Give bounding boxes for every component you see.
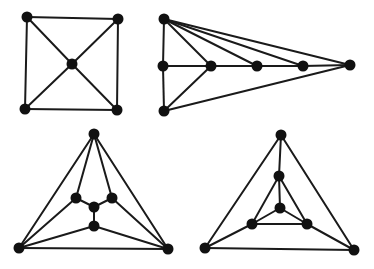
- vertex-br: [163, 244, 174, 255]
- vertex-br: [349, 245, 360, 256]
- vertex-ir: [302, 219, 313, 230]
- vertex-lc: [89, 221, 100, 232]
- vertex-tl: [22, 12, 33, 23]
- edge-bl-br: [19, 248, 168, 249]
- graph-triangle-claw: [14, 129, 174, 255]
- edge-top-ir: [94, 134, 112, 198]
- edge-top-it: [279, 135, 281, 176]
- edge-tr-c: [72, 19, 118, 64]
- vertex-top: [159, 14, 170, 25]
- edge-top-tip: [164, 19, 350, 65]
- edge-bot-tip: [164, 65, 350, 111]
- graph-square-with-center: [20, 12, 124, 116]
- vertex-p3: [298, 61, 309, 72]
- vertex-ir: [107, 193, 118, 204]
- edge-bl-tl: [25, 17, 27, 109]
- vertex-p2: [252, 61, 263, 72]
- edge-bl-br: [205, 248, 354, 250]
- vertex-ml: [158, 61, 169, 72]
- edge-br-bl: [25, 109, 117, 110]
- edge-top-il: [76, 134, 94, 198]
- vertex-il: [247, 219, 258, 230]
- vertex-c: [67, 59, 78, 70]
- vertex-bot: [159, 106, 170, 117]
- edge-tl-tr: [27, 17, 118, 19]
- vertex-top: [276, 130, 287, 141]
- vertex-c: [89, 202, 100, 213]
- edge-ml-bot: [163, 66, 164, 111]
- vertex-br: [112, 105, 123, 116]
- edge-top-bl: [19, 134, 94, 248]
- edge-lc-br: [94, 226, 168, 249]
- edge-ir-br: [307, 224, 354, 250]
- edge-top-p2: [164, 19, 257, 66]
- edge-top-p3: [164, 19, 303, 66]
- vertex-bl: [200, 243, 211, 254]
- vertex-il: [71, 193, 82, 204]
- vertex-tip: [345, 60, 356, 71]
- edge-top-br: [281, 135, 354, 250]
- edge-tl-c: [27, 17, 72, 64]
- vertex-bl: [14, 243, 25, 254]
- vertex-bl: [20, 104, 31, 115]
- vertex-it: [274, 171, 285, 182]
- edge-bl-c: [25, 64, 72, 109]
- edge-top-br: [94, 134, 168, 249]
- vertex-tr: [113, 14, 124, 25]
- vertex-c: [275, 203, 286, 214]
- graph-diagram-canvas: [0, 0, 374, 269]
- edge-br-c: [72, 64, 117, 110]
- graph-nested-triangle: [200, 130, 360, 256]
- graph-fan: [158, 14, 356, 117]
- vertex-p1: [206, 61, 217, 72]
- vertex-top: [89, 129, 100, 140]
- edge-top-ml: [163, 19, 164, 66]
- edge-tr-br: [117, 19, 118, 110]
